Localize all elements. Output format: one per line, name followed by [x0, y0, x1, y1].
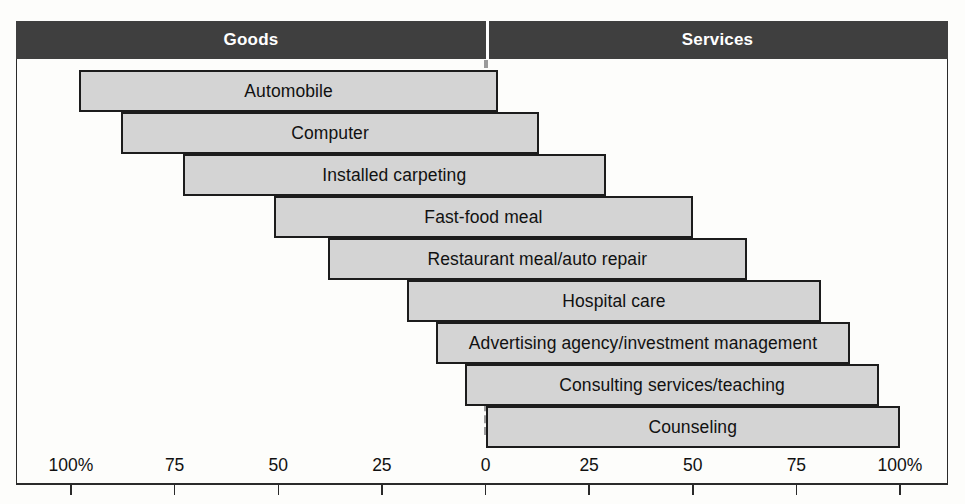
bar-4: Fast-food meal: [274, 196, 693, 238]
bar-6: Hospital care: [407, 280, 822, 322]
axis-tick-label-right-1: 25: [579, 455, 598, 476]
axis-tick-left-3: [381, 484, 383, 495]
bar-7: Advertising agency/investment management: [436, 322, 851, 364]
bar-label: Counseling: [648, 417, 737, 438]
bar-5: Restaurant meal/auto repair: [328, 238, 747, 280]
axis-tick-right-4: [899, 484, 901, 495]
bar-label: Restaurant meal/auto repair: [427, 249, 647, 270]
axis-tick-label-left-3: 25: [372, 455, 391, 476]
axis-tick-right-1: [588, 484, 590, 495]
axis-tick-left-1: [174, 484, 176, 495]
bar-label: Consulting services/teaching: [559, 375, 785, 396]
bar-3: Installed carpeting: [183, 154, 606, 196]
bar-label: Automobile: [244, 81, 333, 102]
axis-tick-label-left-0: 100%: [49, 455, 94, 476]
axis-tick-right-3: [796, 484, 798, 495]
bars-layer: AutomobileComputerInstalled carpetingFas…: [0, 0, 965, 504]
bar-label: Fast-food meal: [424, 207, 542, 228]
axis-tick-left-2: [278, 484, 280, 495]
bar-label: Installed carpeting: [322, 165, 466, 186]
axis-line: [16, 483, 948, 485]
axis-tick-label-left-2: 50: [269, 455, 288, 476]
axis-tick-left-4: [485, 484, 487, 495]
axis-tick-label-left-4: 0: [481, 455, 491, 476]
axis-tick-right-2: [692, 484, 694, 495]
bar-1: Automobile: [79, 70, 498, 112]
axis-tick-label-right-4: 100%: [878, 455, 923, 476]
axis-tick-label-left-1: 75: [165, 455, 184, 476]
bar-9: Counseling: [486, 406, 901, 448]
bar-label: Hospital care: [562, 291, 665, 312]
bar-8: Consulting services/teaching: [465, 364, 880, 406]
axis-tick-label-right-2: 50: [683, 455, 702, 476]
bar-label: Advertising agency/investment management: [469, 333, 817, 354]
bar-2: Computer: [121, 112, 540, 154]
goods-services-continuum-figure: Goods Services AutomobileComputerInstall…: [0, 0, 965, 504]
axis-tick-label-right-3: 75: [787, 455, 806, 476]
bar-label: Computer: [291, 123, 369, 144]
axis-tick-left-0: [70, 484, 72, 495]
